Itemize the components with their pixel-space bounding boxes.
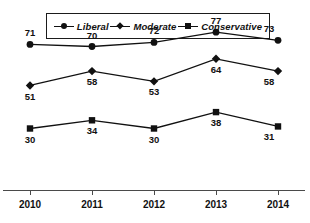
axis-tick-label: 2010	[19, 199, 41, 210]
data-point-marker[interactable]	[27, 125, 33, 131]
data-point-marker[interactable]	[213, 29, 220, 36]
data-label: 73	[264, 23, 275, 34]
data-point-marker[interactable]	[150, 77, 158, 85]
data-label: 77	[211, 15, 222, 26]
data-point-marker[interactable]	[27, 41, 34, 48]
data-label: 34	[87, 125, 98, 136]
data-point-marker[interactable]	[212, 55, 220, 63]
data-label: 30	[25, 134, 36, 145]
axis-tick	[30, 190, 31, 195]
data-label: 58	[87, 76, 98, 87]
series-line-moderate	[30, 59, 278, 86]
data-label: 72	[149, 25, 160, 36]
data-point-marker[interactable]	[151, 125, 157, 131]
data-label: 38	[211, 117, 222, 128]
axis-tick	[154, 190, 155, 195]
data-label: 31	[264, 131, 275, 142]
data-point-marker[interactable]	[151, 39, 158, 46]
axis-tick-label: 2011	[81, 199, 103, 210]
data-point-marker[interactable]	[88, 67, 96, 75]
axis-tick-label: 2014	[267, 199, 289, 210]
data-label: 71	[25, 27, 36, 38]
data-point-marker[interactable]	[275, 37, 282, 44]
axis-tick	[216, 190, 217, 195]
data-point-marker[interactable]	[213, 109, 219, 115]
data-point-marker[interactable]	[89, 43, 96, 50]
data-label: 64	[211, 64, 222, 75]
data-point-marker[interactable]	[274, 67, 282, 75]
series-line-conservative	[30, 112, 278, 128]
data-label: 30	[149, 134, 160, 145]
axis-tick-label: 2012	[143, 199, 165, 210]
axis-tick-label: 2013	[205, 199, 227, 210]
axis-tick	[278, 190, 279, 195]
data-point-marker[interactable]	[89, 117, 95, 123]
data-label: 51	[25, 91, 36, 102]
axis-tick	[92, 190, 93, 195]
data-label: 70	[87, 30, 98, 41]
data-label: 53	[149, 86, 160, 97]
data-point-marker[interactable]	[275, 123, 281, 129]
line-chart: Liberal Moderate Conservative 7170727773…	[0, 0, 310, 223]
data-point-marker[interactable]	[26, 81, 34, 89]
data-label: 58	[264, 76, 275, 87]
